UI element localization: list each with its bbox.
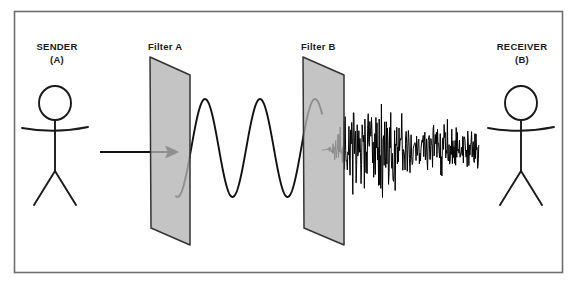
- filter-b-plane[interactable]: [303, 57, 344, 245]
- filter-b-label: Filter B: [301, 40, 371, 53]
- filter-a-label: Filter A: [148, 40, 218, 53]
- receiver-label: RECEIVER: [489, 40, 555, 53]
- filter-a-plane[interactable]: [150, 57, 190, 245]
- sender-sublabel: (A): [26, 53, 88, 66]
- sender-label: SENDER: [26, 40, 88, 53]
- diagram-canvas: SENDER (A) Filter A Filter B RECEIVER (B…: [0, 0, 579, 289]
- receiver-sublabel: (B): [489, 53, 555, 66]
- diagram-frame: [15, 12, 563, 273]
